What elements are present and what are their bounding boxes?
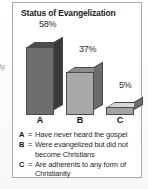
category-axis: A B C	[13, 115, 141, 127]
bar-a-value-label: 58%	[39, 19, 56, 29]
legend-description-b: Were evangelized but did not become Chri…	[35, 140, 141, 159]
legend-item-a: A = Have never heard the gospel	[19, 130, 141, 140]
bar-b-front-face	[66, 72, 94, 115]
bar-c-value-label: 5%	[119, 80, 132, 90]
page-bleed-text: ty	[0, 62, 11, 71]
bar-a	[26, 42, 54, 115]
legend-key-a: A	[19, 130, 28, 140]
legend-separator-a: =	[28, 130, 35, 140]
chart-legend: A = Have never heard the gospel B = Were…	[19, 130, 141, 179]
bar-a-front-face	[26, 47, 54, 115]
figure-screenshot: ty Status of Evangelization 58% 37% 5%	[0, 0, 148, 189]
chart-plot-area: 58% 37% 5%	[13, 17, 141, 115]
bar-a-side-face	[54, 37, 63, 110]
legend-key-c: C	[19, 160, 28, 170]
bar-c-front-face	[106, 107, 134, 115]
legend-separator-c: =	[28, 160, 35, 170]
bar-b-side-face	[94, 62, 103, 110]
bar-b	[66, 67, 94, 115]
legend-key-b: B	[19, 140, 28, 150]
axis-label-a: A	[30, 115, 50, 125]
legend-description-c: Are adherents to any form of Christianit…	[35, 160, 141, 179]
axis-label-c: C	[110, 115, 130, 125]
bar-b-value-label: 37%	[79, 44, 96, 54]
bar-c	[106, 102, 134, 115]
chart-figure-box: Status of Evangelization 58% 37% 5%	[12, 2, 142, 178]
axis-label-b: B	[70, 115, 90, 125]
bar-c-side-face	[134, 97, 143, 110]
legend-separator-b: =	[28, 140, 35, 150]
legend-item-b: B = Were evangelized but did not become …	[19, 140, 141, 159]
legend-description-a: Have never heard the gospel	[35, 130, 141, 140]
legend-item-c: C = Are adherents to any form of Christi…	[19, 160, 141, 179]
